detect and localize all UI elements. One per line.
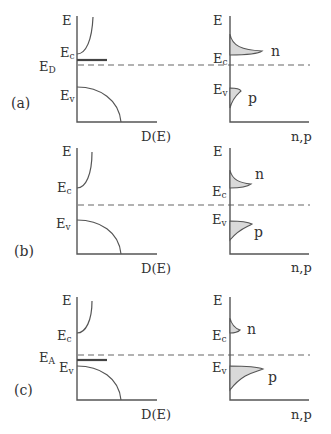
panel-tag: (b) — [14, 243, 34, 259]
p-label: p — [248, 90, 257, 106]
carrier-plot: E n Ec p Ev n,p — [213, 13, 312, 144]
ec-label: Ec — [213, 51, 228, 67]
energy-axis-label: E — [62, 144, 72, 159]
panel-c: (c) E Ec EA Ev D(E) E n Ec p Ev n,p — [14, 293, 312, 422]
carrier-plot: E n Ec p Ev n,p — [212, 144, 312, 275]
n-label: n — [255, 166, 264, 182]
ed-label: ED — [39, 59, 56, 75]
ev-label: Ev — [212, 212, 228, 228]
dos-x-axis-label: D(E) — [141, 129, 171, 144]
carrier-axes — [230, 148, 309, 254]
ec-label: Ec — [60, 45, 75, 61]
dos-x-axis-label: D(E) — [141, 261, 171, 276]
ea-label: EA — [39, 350, 56, 366]
dos-axes — [77, 16, 157, 122]
hole-distribution-p — [230, 88, 241, 108]
carrier-x-axis-label: n,p — [291, 407, 312, 422]
electron-distribution-n — [230, 170, 251, 188]
dos-plot: E Ec EA Ev D(E) — [39, 293, 171, 422]
n-label: n — [271, 43, 280, 59]
ec-label: Ec — [212, 184, 227, 200]
ev-label: Ev — [213, 82, 229, 98]
panel-a: (a) E Ec ED Ev D(E) E n Ec p Ev n,p — [11, 13, 312, 144]
p-label: p — [268, 369, 277, 385]
dos-plot: E Ec Ev D(E) — [56, 144, 171, 276]
band-diagram-figure: (a) E Ec ED Ev D(E) E n Ec p Ev n,p — [0, 0, 331, 434]
panel-tag: (a) — [11, 95, 30, 111]
energy-axis-label: E — [213, 13, 223, 28]
carrier-plot: E n Ec p Ev n,p — [212, 293, 312, 422]
hole-distribution-p — [230, 221, 252, 240]
ev-label: Ev — [59, 360, 75, 376]
dos-axes — [77, 148, 157, 254]
energy-axis-label: E — [213, 144, 223, 159]
electron-distribution-n — [230, 34, 262, 55]
dos-axes — [77, 297, 157, 400]
conduction-band-dos-curve — [77, 152, 92, 188]
ev-label: Ev — [60, 88, 76, 104]
ev-label: Ev — [212, 360, 228, 376]
energy-axis-label: E — [62, 293, 72, 308]
ec-label: Ec — [57, 328, 72, 344]
conduction-band-dos-curve — [77, 301, 92, 333]
hole-distribution-p — [230, 366, 263, 390]
ev-label: Ev — [56, 216, 72, 232]
conduction-band-dos-curve — [77, 17, 93, 54]
dos-x-axis-label: D(E) — [141, 407, 171, 422]
energy-axis-label: E — [213, 293, 223, 308]
carrier-axes — [230, 16, 309, 122]
dos-plot: E Ec ED Ev D(E) — [39, 13, 171, 144]
p-label: p — [254, 224, 263, 240]
panel-b: (b) E Ec Ev D(E) E n Ec p Ev n,p — [14, 144, 312, 276]
ec-label: Ec — [212, 328, 227, 344]
electron-distribution-n — [230, 318, 240, 333]
n-label: n — [247, 321, 256, 337]
valence-band-dos-curve — [77, 366, 121, 400]
carrier-x-axis-label: n,p — [291, 260, 312, 275]
energy-axis-label: E — [62, 13, 72, 28]
carrier-x-axis-label: n,p — [291, 129, 312, 144]
valence-band-dos-curve — [77, 87, 121, 122]
panel-tag: (c) — [14, 382, 33, 398]
valence-band-dos-curve — [77, 220, 121, 254]
ec-label: Ec — [57, 180, 72, 196]
